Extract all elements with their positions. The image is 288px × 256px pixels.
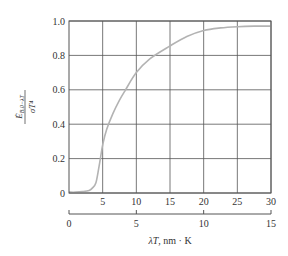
x-axis-label: λT, nm · K <box>147 235 192 246</box>
chart: 00.20.40.60.81.0 51015202530 051015 λT, … <box>0 0 288 256</box>
y-tick-label: 1.0 <box>53 16 66 27</box>
y-tick-label: 0.2 <box>53 153 66 164</box>
y-axis-label-numerator: ĖB,0−λT <box>14 95 25 120</box>
y-tick-label: 0.6 <box>53 84 66 95</box>
secondary-tick-label: 15 <box>266 218 276 229</box>
secondary-tick-label: 10 <box>199 218 209 229</box>
y-axis-label-denominator: σT⁴ <box>27 101 37 114</box>
x-tick-label: 30 <box>266 196 276 207</box>
secondary-x-axis: 051015 <box>67 210 277 229</box>
x-tick-label: 5 <box>100 196 105 207</box>
y-tick-label: 0.4 <box>53 119 66 130</box>
x-tick-label: 10 <box>131 196 141 207</box>
y-axis-label: ĖB,0−λT σT⁴ <box>14 90 37 124</box>
secondary-tick-label: 0 <box>67 218 72 229</box>
y-tick-label: 0.8 <box>53 50 66 61</box>
y-axis-ticks: 00.20.40.60.81.0 <box>53 16 66 199</box>
x-tick-label: 15 <box>165 196 175 207</box>
secondary-tick-label: 5 <box>134 218 139 229</box>
x-tick-label: 25 <box>232 196 242 207</box>
x-tick-label: 20 <box>199 196 209 207</box>
y-tick-label: 0 <box>60 188 65 199</box>
x-axis-ticks: 51015202530 <box>100 196 276 207</box>
